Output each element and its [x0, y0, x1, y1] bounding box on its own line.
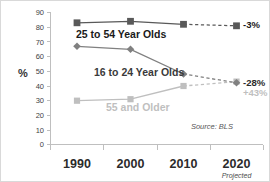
y-tick-label-90: 90	[36, 8, 44, 17]
y-tick-label-50: 50	[36, 67, 44, 76]
series-label-55-and-older: 55 and Older	[106, 101, 170, 113]
y-tick-label-30: 30	[36, 96, 44, 105]
series-25-to-54-marker-1990	[74, 19, 81, 26]
series-25-to-54-marker-2010	[180, 21, 187, 28]
series-label-16-to-24: 16 to 24 Year Olds	[94, 66, 184, 78]
x-tick-label-2000: 2000	[117, 157, 145, 171]
line-chart-figure: 90 80 70 60 50 40 30 20 10 0 % 1990 2000…	[0, 0, 270, 182]
change-label-25-to-54: -3%	[243, 19, 260, 30]
series-55-and-older-marker-1990	[74, 98, 80, 104]
y-tick-label-80: 80	[36, 23, 44, 32]
change-label-55-and-older: +43%	[243, 87, 268, 98]
x-tick-label-2020: 2020	[223, 157, 251, 171]
y-tick-label-40: 40	[36, 82, 44, 91]
source-note: Source: BLS	[191, 122, 233, 131]
y-tick-label-20: 20	[36, 111, 44, 120]
y-axis-title: %	[18, 67, 28, 79]
y-tick-label-70: 70	[36, 38, 44, 47]
x-projected-note: Projected	[222, 172, 253, 180]
x-tick-label-2010: 2010	[170, 157, 198, 171]
series-25-to-54-marker-2020	[233, 22, 240, 29]
series-25-to-54-marker-2000	[127, 18, 134, 25]
y-tick-label-10: 10	[36, 126, 44, 135]
y-tick-label-60: 60	[36, 52, 44, 61]
series-label-25-to-54: 25 to 54 Year Olds	[76, 28, 166, 40]
y-tick-label-0: 0	[40, 140, 44, 149]
series-55-and-older-marker-2010	[180, 83, 186, 89]
x-tick-label-1990: 1990	[63, 157, 91, 171]
chart-canvas: 90 80 70 60 50 40 30 20 10 0 % 1990 2000…	[1, 1, 270, 182]
